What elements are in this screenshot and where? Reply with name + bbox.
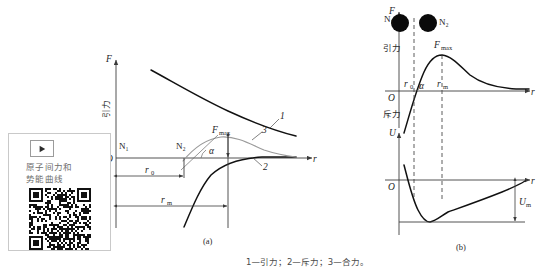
panel-a-angle-label: α [209,146,215,156]
panel-a-angle-arc [201,150,206,158]
panel-a-y-axis-label: F [105,54,112,64]
panel-a-fmax-label: F [211,125,218,135]
panel-b-force-curve [404,55,529,133]
panel-a-curve2-number: 2 [263,162,268,172]
panel-a: F r O 引力 斥力 N₁ N₂ 1 2 3 α F max [101,54,317,246]
panel-b-force-x-label: r [531,87,535,97]
panel-b-energy-x-label: r [531,176,535,186]
panel-b-atom-n2-label: N₂ [439,17,449,27]
panel-b-atom-n1-label: N₁ [384,14,394,24]
panel-a-x-axis-label: r [313,154,317,164]
panel-b-rm-subscript: m [443,83,448,90]
panel-b-rm-label: r [437,79,441,89]
panel-a-curve1-number: 1 [280,111,285,121]
figure-caption: 1—引力；2—斥力；3—合力。 [246,257,369,267]
panel-b-fmax-subscript: max [441,44,453,51]
panel-a-rm-label: r [161,195,165,205]
promo-title: 原子间力和 势能曲线 [26,161,102,185]
panel-b-energy-curve [404,165,525,222]
panel-b-energy: U r O U m (b) [385,128,535,252]
panel-a-rm-subscript: m [167,199,172,206]
panel-b-angle-label: α [419,81,425,91]
panel-b-attraction-label: 引力 [383,43,401,53]
panel-a-id: (a) [203,236,213,246]
panel-b-um-subscript: m [526,201,531,208]
panel-b-r0-label: r [404,79,408,89]
panel-a-atom-n2-label: N₂ [176,141,186,151]
panel-b-r0-subscript: 0 [410,83,413,90]
qr-code[interactable] [29,188,91,250]
panel-a-attraction-label: 引力 [101,100,111,118]
panel-a-fmax-subscript: max [219,129,231,136]
panel-a-atom-n1-label: N₁ [119,141,129,151]
panel-b-id: (b) [456,242,466,252]
promo-title-line1: 原子间力和 [26,161,102,173]
panel-a-curve1-leader [270,119,279,128]
panel-a-curve3-number: 3 [261,125,267,135]
play-button[interactable] [30,140,54,157]
promo-title-line2: 势能曲线 [26,173,102,185]
panel-a-curve-repulsion [184,157,296,227]
panel-b-repulsion-label: 斥力 [383,109,401,119]
panel-b-energy-y-label: U [389,128,397,138]
panel-a-r0-label: r [145,165,149,175]
panel-a-r0-subscript: 0 [151,169,154,176]
panel-b-origin-label: O [388,93,395,103]
panel-a-curve-attraction [151,70,296,136]
qr-code-canvas [29,188,91,250]
panel-b-atom-n1-circle [391,14,409,32]
panel-a-curve3-leader [252,132,262,140]
panel-b-fmax-label: F [433,40,440,50]
panel-b-atom-n2-circle [419,14,437,32]
play-triangle-icon [38,145,46,153]
panel-b-energy-origin-label: O [388,182,395,192]
